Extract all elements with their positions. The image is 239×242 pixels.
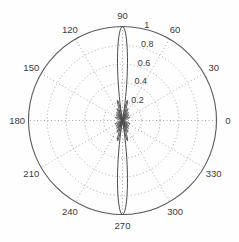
angle-tick-label-60: 60 [170,24,181,35]
angle-tick-label-180: 180 [9,115,25,126]
angle-tick-label-150: 150 [23,62,39,73]
angle-tick-label-90: 90 [117,10,128,21]
angle-tick-label-30: 30 [208,62,219,73]
angle-tick-label-120: 120 [62,24,78,35]
radial-tick-label-0.2: 0.2 [131,95,144,105]
angle-tick-label-240: 240 [62,206,78,217]
angle-tick-label-300: 300 [167,206,183,217]
polar-plot-figure: 03060901201501802102402703003300.20.40.6… [0,0,239,242]
angle-tick-label-270: 270 [115,220,131,231]
polar-plot: 03060901201501802102402703003300.20.40.6… [0,0,239,242]
radial-tick-label-0.4: 0.4 [135,76,148,86]
radial-tick-label-0.8: 0.8 [141,39,154,49]
angle-tick-label-330: 330 [206,168,222,179]
radial-tick-label-0.6: 0.6 [138,58,151,68]
angle-tick-label-0: 0 [225,115,230,126]
radial-tick-label-1: 1 [144,20,149,30]
angle-tick-label-210: 210 [23,168,39,179]
